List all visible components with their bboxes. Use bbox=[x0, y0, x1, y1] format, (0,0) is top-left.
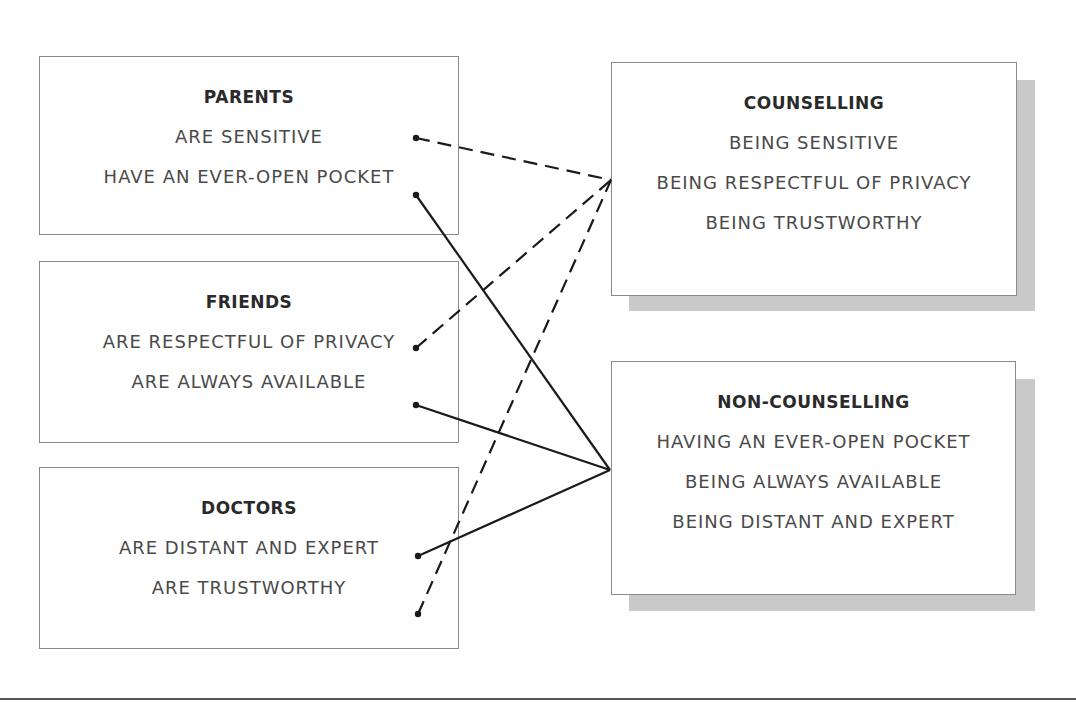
connector-dashed-doctors-trustworthy bbox=[418, 180, 611, 614]
connector-dot bbox=[415, 611, 421, 617]
connector-dashed-parents-sensitive bbox=[416, 138, 611, 180]
connector-dot bbox=[413, 345, 419, 351]
connector-solid-doctors-distant bbox=[418, 470, 610, 556]
connector-dashed-friends-privacy bbox=[416, 180, 611, 348]
connector-solid-friends-available bbox=[416, 405, 610, 470]
connector-dot bbox=[413, 135, 419, 141]
connector-lines bbox=[0, 0, 1076, 708]
footer-divider bbox=[0, 698, 1076, 700]
connector-dot bbox=[413, 192, 419, 198]
connector-dot bbox=[415, 553, 421, 559]
connector-dot bbox=[413, 402, 419, 408]
connector-solid-parents-pocket bbox=[416, 195, 610, 470]
